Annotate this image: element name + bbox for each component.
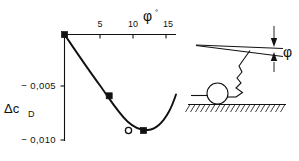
- data-marker-open-circle-9p5deg: [125, 127, 131, 133]
- figure-canvas: 5 10 15 φ ° − 0,005 − 0,010 Δc D: [0, 0, 299, 161]
- inset-angle-arrow-lower-head: [271, 52, 277, 61]
- inset-ground-hatching: [186, 105, 286, 113]
- data-marker-filled-square-origin: [62, 32, 68, 38]
- inset-angle-label-phi: φ: [283, 44, 292, 60]
- y-ticklabel-minus-0010: − 0,010: [21, 134, 56, 145]
- y-axis-title-subscript-d: D: [28, 109, 35, 119]
- y-ticklabel-minus-0005: − 0,005: [21, 80, 56, 91]
- landing-gear-schematic-inset: φ: [186, 26, 293, 112]
- data-curve: [65, 35, 177, 131]
- data-marker-filled-square-6p5deg: [106, 93, 112, 99]
- x-ticklabel-10: 10: [128, 19, 138, 29]
- inset-wheel: [207, 83, 228, 104]
- x-axis-title-phi: φ: [143, 8, 152, 24]
- figure-root: 5 10 15 φ ° − 0,005 − 0,010 Δc D: [0, 0, 299, 161]
- plot-area: 5 10 15 φ ° − 0,005 − 0,010 Δc D: [4, 8, 176, 145]
- drag-coefficient-figure: 5 10 15 φ ° − 0,005 − 0,010 Δc D: [0, 0, 299, 161]
- inset-strut: [236, 51, 250, 98]
- x-axis-title-degree: °: [155, 8, 158, 17]
- y-axis-title-delta-cd: Δc: [4, 101, 20, 116]
- inset-angle-arrow-upper-head: [271, 38, 277, 47]
- data-marker-filled-square-11deg: [141, 128, 147, 134]
- x-ticklabel-15: 15: [163, 19, 173, 29]
- x-ticklabel-5: 5: [97, 19, 102, 29]
